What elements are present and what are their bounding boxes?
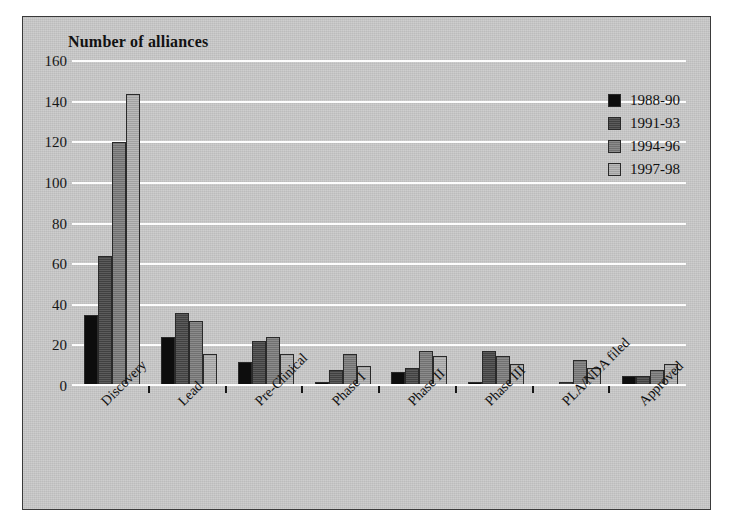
chart-legend: 1988-901991-931994-961997-98 xyxy=(608,89,728,181)
y-axis-tick-label: 40 xyxy=(52,296,67,313)
y-axis-tick-label: 0 xyxy=(60,378,68,395)
bar xyxy=(238,362,252,386)
bar xyxy=(175,313,189,386)
chart-figure: Number of alliances 16014012010080604020… xyxy=(0,0,733,526)
bar xyxy=(98,256,112,386)
bar xyxy=(482,351,496,386)
y-axis-tick-label: 60 xyxy=(52,256,67,273)
legend-label: 1991-93 xyxy=(630,115,680,132)
bar-group xyxy=(545,61,601,386)
legend-item: 1991-93 xyxy=(608,112,728,135)
chart-panel: Number of alliances 16014012010080604020… xyxy=(22,16,711,510)
bar xyxy=(189,321,203,386)
legend-item: 1997-98 xyxy=(608,158,728,181)
y-axis-tick-label: 120 xyxy=(45,134,68,151)
plot-area xyxy=(72,61,686,386)
y-axis-tick-label: 100 xyxy=(45,174,68,191)
legend-swatch-icon xyxy=(608,163,621,176)
bar xyxy=(161,337,175,386)
bar-group xyxy=(468,61,524,386)
bar-group xyxy=(84,61,140,386)
y-axis-tick-label: 160 xyxy=(45,53,68,70)
legend-item: 1988-90 xyxy=(608,89,728,112)
bar xyxy=(203,354,217,387)
y-axis-tick-label: 20 xyxy=(52,337,67,354)
y-axis-tick-label: 80 xyxy=(52,215,67,232)
legend-swatch-icon xyxy=(608,140,621,153)
bar xyxy=(126,94,140,387)
bar xyxy=(252,341,266,386)
legend-swatch-icon xyxy=(608,94,621,107)
bar-group xyxy=(161,61,217,386)
legend-label: 1997-98 xyxy=(630,161,680,178)
legend-item: 1994-96 xyxy=(608,135,728,158)
y-axis-tick-labels: 160140120100806040200 xyxy=(23,61,67,386)
bar-group xyxy=(315,61,371,386)
y-axis-tick-label: 140 xyxy=(45,93,68,110)
bar-group xyxy=(238,61,294,386)
legend-swatch-icon xyxy=(608,117,621,130)
bar-group xyxy=(391,61,447,386)
bar xyxy=(112,142,126,386)
legend-label: 1994-96 xyxy=(630,138,680,155)
chart-title: Number of alliances xyxy=(68,33,208,51)
bar xyxy=(84,315,98,386)
legend-label: 1988-90 xyxy=(630,92,680,109)
